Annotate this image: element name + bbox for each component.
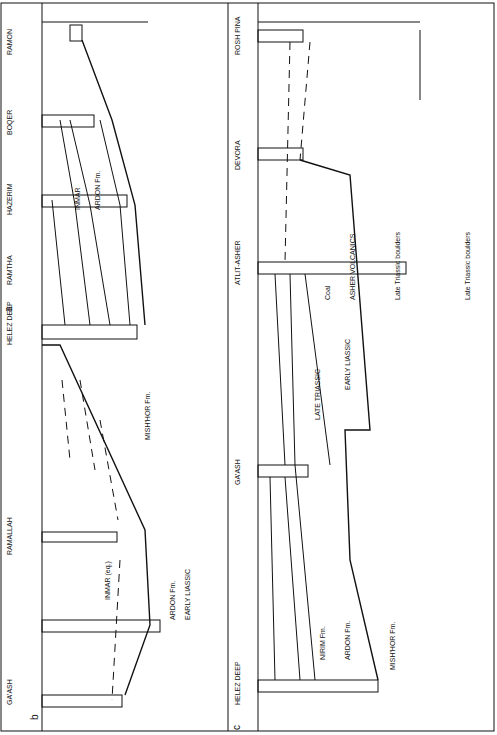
label-ardon-b: ARDON Fm. bbox=[169, 581, 176, 620]
well-atlit-asher: ATLIT-ASHER bbox=[234, 240, 241, 285]
panel-a-label: a bbox=[3, 306, 14, 312]
label-early-liassic: EARLY LIASSIC bbox=[344, 339, 351, 390]
panel-b-lines bbox=[42, 345, 160, 707]
label-late-triassic-boulders-2: Late Triassic boulders bbox=[464, 231, 471, 300]
label-mishhor: MISH'HOR Fm. bbox=[389, 622, 396, 670]
well-ramtha: RAMTHA bbox=[6, 255, 13, 285]
well-hazerim: HAZERIM bbox=[6, 183, 13, 215]
well-ramon: RAMON bbox=[6, 29, 13, 55]
label-ardon-a: ARDON Fm. bbox=[94, 171, 101, 210]
panel-c-lines bbox=[258, 30, 420, 692]
label-late-triassic-boulders: Late Triassic boulders bbox=[394, 231, 401, 300]
well-rosh-pina: ROSH PINA bbox=[234, 16, 241, 55]
label-inmar-eq: INMAR (eq.) bbox=[104, 561, 112, 600]
geologic-cross-sections: RAMON BOQER HAZERIM HELEZ DEEP a RAMTHA … bbox=[0, 0, 497, 735]
well-boqer: BOQER bbox=[6, 110, 14, 135]
label-inmar-a: INMAR bbox=[74, 187, 81, 210]
label-late-triassic: LATE TRIASSIC bbox=[314, 369, 321, 420]
label-coal: Coal bbox=[324, 285, 331, 300]
panel-c-label: c bbox=[231, 725, 242, 730]
well-devora: DEVORA bbox=[234, 140, 241, 170]
panel-b-label: b bbox=[29, 714, 40, 720]
figure-frame bbox=[1, 3, 494, 731]
well-columns-a bbox=[42, 25, 137, 339]
well-gaash-c: GA'ASH bbox=[234, 459, 241, 485]
label-nirim: NIRIM Fm. bbox=[319, 626, 326, 660]
well-helez-deep-c: HELEZ DEEP bbox=[234, 661, 241, 705]
label-early-liassic-b: EARLY LIASSIC bbox=[184, 569, 191, 620]
label-mishhor-b: MISH'HOR Fm. bbox=[144, 392, 151, 440]
well-gaash: GA'ASH bbox=[6, 679, 13, 705]
label-ardon: ARDON Fm. bbox=[344, 621, 351, 660]
well-ramallah: RAMALLAH bbox=[6, 517, 13, 555]
label-asher-volcanics: ASHER VOLCANICS bbox=[349, 233, 356, 300]
